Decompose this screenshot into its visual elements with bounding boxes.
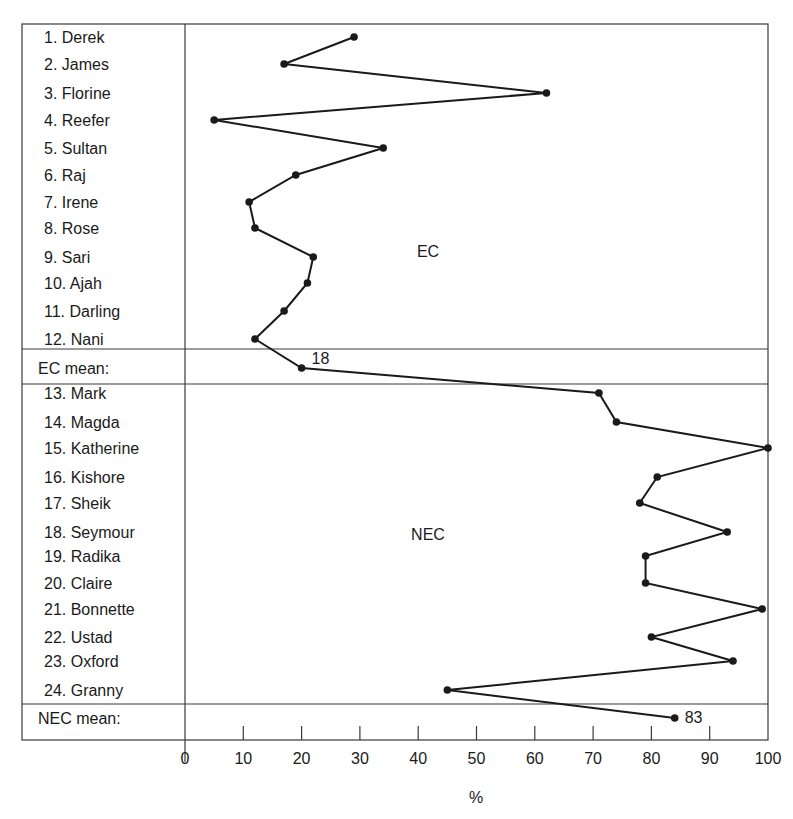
row-label: 7. Irene [44, 194, 98, 211]
data-point [298, 364, 306, 372]
data-point [595, 389, 603, 397]
data-line [210, 33, 771, 722]
row-label: 23. Oxford [44, 653, 119, 670]
row-label: 16. Kishore [44, 469, 125, 486]
data-point [723, 528, 731, 536]
row-label: 10. Ajah [44, 275, 102, 292]
x-tick-label: 20 [293, 750, 311, 767]
data-point [444, 686, 452, 694]
x-tick-label: 0 [181, 750, 190, 767]
row-label: 8. Rose [44, 220, 99, 237]
x-tick-label: 40 [409, 750, 427, 767]
data-point [642, 579, 650, 587]
data-point [251, 224, 259, 232]
row-label: 24. Granny [44, 682, 123, 699]
data-point [671, 714, 679, 722]
x-tick-label: 90 [701, 750, 719, 767]
row-label: 21. Bonnette [44, 601, 135, 618]
data-point [309, 253, 317, 261]
row-label: 2. James [44, 56, 109, 73]
data-point [653, 473, 661, 481]
data-point [280, 60, 288, 68]
group-label: NEC [411, 526, 445, 543]
data-point [245, 198, 253, 206]
frame-border [22, 24, 768, 740]
row-label: 20. Claire [44, 575, 113, 592]
data-point [642, 552, 650, 560]
data-point [292, 171, 300, 179]
row-label: 12. Nani [44, 331, 104, 348]
row-label: 1. Derek [44, 29, 105, 46]
chart: 1. Derek2. James3. Florine4. Reefer5. Su… [0, 0, 793, 819]
data-point [648, 633, 656, 641]
x-tick-label: 10 [234, 750, 252, 767]
x-tick-label: 60 [526, 750, 544, 767]
row-label: 4. Reefer [44, 112, 110, 129]
x-tick-label: 100 [755, 750, 782, 767]
x-axis-label: % [469, 789, 483, 806]
x-tick-label: 70 [584, 750, 602, 767]
mean-value-annotation: 83 [685, 709, 703, 726]
data-point [251, 335, 259, 343]
row-label: 3. Florine [44, 85, 111, 102]
data-point [636, 499, 644, 507]
data-point [210, 116, 218, 124]
row-label: 5. Sultan [44, 140, 107, 157]
series-line [214, 37, 768, 718]
data-point [304, 279, 312, 287]
x-tick-label: 50 [468, 750, 486, 767]
row-label: 13. Mark [44, 385, 107, 402]
row-label: 22. Ustad [44, 629, 112, 646]
group-label: EC [417, 243, 439, 260]
data-point [764, 444, 772, 452]
mean-label: NEC mean: [38, 710, 121, 727]
row-labels: 1. Derek2. James3. Florine4. Reefer5. Su… [38, 29, 139, 727]
row-label: 6. Raj [44, 167, 86, 184]
x-tick-label: 80 [643, 750, 661, 767]
mean-label: EC mean: [38, 360, 109, 377]
data-point [729, 657, 737, 665]
data-point [379, 144, 387, 152]
annotations: 18EC83NEC [312, 243, 703, 726]
data-point [350, 33, 358, 41]
data-point [543, 89, 551, 97]
row-label: 11. Darling [44, 303, 120, 320]
chart-frame [22, 24, 768, 762]
data-point [613, 418, 621, 426]
row-label: 14. Magda [44, 414, 120, 431]
row-label: 15. Katherine [44, 440, 139, 457]
data-point [758, 605, 766, 613]
row-label: 18. Seymour [44, 524, 135, 541]
row-label: 17. Sheik [44, 495, 112, 512]
mean-value-annotation: 18 [312, 350, 330, 367]
x-tick-label: 30 [351, 750, 369, 767]
x-axis: 0102030405060708090100 [181, 726, 782, 767]
row-label: 9. Sari [44, 249, 90, 266]
data-point [280, 307, 288, 315]
row-label: 19. Radika [44, 548, 121, 565]
